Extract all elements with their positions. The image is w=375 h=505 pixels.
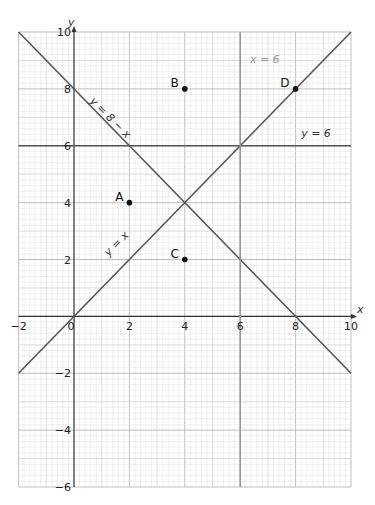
point-label-d: D	[280, 76, 289, 90]
y-tick-label: 4	[64, 197, 71, 210]
point-c	[182, 257, 188, 263]
y-tick-label: 2	[64, 254, 71, 267]
line-label: y = 6	[300, 127, 331, 140]
point-a	[127, 200, 133, 206]
point-d	[293, 86, 299, 92]
point-label-a: A	[115, 190, 124, 204]
point-label-b: B	[171, 76, 179, 90]
y-tick-label: 10	[57, 26, 71, 39]
y-tick-label: −6	[55, 481, 71, 494]
x-tick-label: 8	[292, 320, 299, 333]
x-tick-label: −2	[11, 320, 27, 333]
y-tick-label: 8	[64, 83, 71, 96]
x-tick-label: 10	[344, 320, 358, 333]
y-tick-label: 6	[64, 140, 71, 153]
point-b	[182, 86, 188, 92]
line-label: x = 6	[249, 53, 280, 66]
x-tick-label: 2	[126, 320, 133, 333]
point-label-c: C	[170, 247, 178, 261]
y-tick-label: −2	[55, 367, 71, 380]
x-tick-label: 4	[181, 320, 188, 333]
y-tick-label: −4	[55, 424, 71, 437]
x-tick-label: 6	[237, 320, 244, 333]
chart: xy −20246810−6−4−2246810 ABCD y = 8 − xy…	[0, 0, 375, 505]
line-label: y = x	[101, 229, 132, 260]
x-axis-label: x	[356, 303, 364, 316]
x-tick-label: 0	[68, 320, 75, 333]
line-labels: y = 8 − xy = xy = 6x = 6	[86, 53, 330, 259]
